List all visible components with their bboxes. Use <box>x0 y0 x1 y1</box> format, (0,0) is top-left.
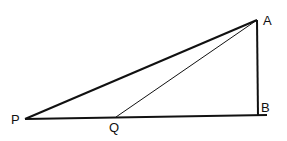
segment-QA <box>116 20 257 117</box>
label-A: A <box>263 13 272 28</box>
segment-AB <box>257 20 258 116</box>
segment-PA <box>25 20 257 119</box>
label-B: B <box>261 100 270 115</box>
diagram-canvas: A B P Q <box>0 0 287 141</box>
label-P: P <box>11 112 20 127</box>
segment-PB <box>25 115 267 119</box>
triangle-diagram: A B P Q <box>0 0 287 141</box>
label-Q: Q <box>109 120 119 135</box>
